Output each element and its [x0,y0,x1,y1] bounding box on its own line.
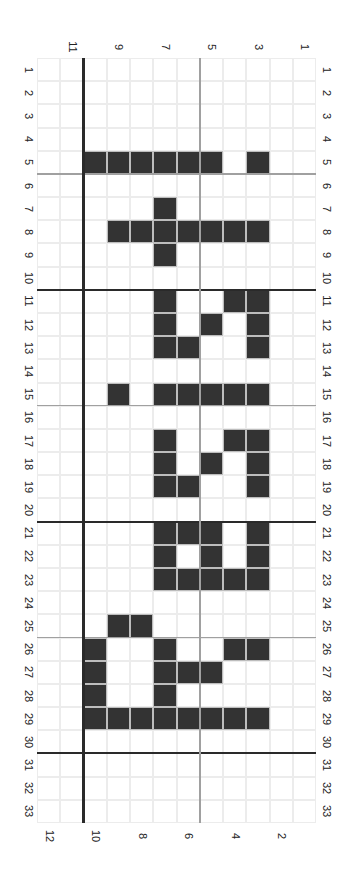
empty-cell [177,545,200,568]
gray-row-separator [37,405,316,407]
empty-cell [130,104,153,127]
empty-cell [37,800,60,823]
empty-cell [293,58,316,81]
filled-cell [223,290,246,313]
row-label-right: 10 [321,272,332,284]
row-label-right: 29 [321,713,332,725]
empty-cell [293,614,316,637]
gray-row-separator [37,173,316,175]
row-label-left: 29 [23,713,34,725]
empty-cell [107,128,130,151]
row-label-right: 24 [321,597,332,609]
empty-cell [107,730,130,753]
empty-cell [246,661,269,684]
empty-cell [270,81,293,104]
empty-cell [153,498,176,521]
row-label-right: 2 [321,90,332,96]
empty-cell [37,267,60,290]
empty-cell [60,336,83,359]
empty-cell [37,614,60,637]
empty-cell [223,359,246,382]
row-label-left: 31 [23,759,34,771]
filled-cell [223,429,246,452]
empty-cell [270,707,293,730]
empty-cell [200,800,223,823]
empty-cell [130,313,153,336]
dark-col-separator [82,58,85,823]
empty-cell [246,243,269,266]
filled-cell [246,568,269,591]
filled-cell [246,638,269,661]
empty-cell [37,81,60,104]
empty-cell [270,58,293,81]
filled-cell [153,313,176,336]
empty-cell [153,753,176,776]
empty-cell [153,591,176,614]
empty-cell [130,359,153,382]
filled-cell [200,707,223,730]
row-label-right: 6 [321,182,332,188]
empty-cell [270,267,293,290]
empty-cell [293,243,316,266]
empty-cell [270,383,293,406]
empty-cell [37,707,60,730]
row-label-left: 11 [23,296,34,307]
empty-cell [177,359,200,382]
empty-cell [37,684,60,707]
filled-cell [200,661,223,684]
empty-cell [84,522,107,545]
filled-cell [130,220,153,243]
empty-cell [200,128,223,151]
empty-cell [84,81,107,104]
empty-cell [130,58,153,81]
filled-cell [177,475,200,498]
row-label-left: 1 [23,67,34,73]
empty-cell [153,267,176,290]
empty-cell [84,429,107,452]
filled-cell [153,475,176,498]
empty-cell [60,661,83,684]
empty-cell [270,429,293,452]
empty-cell [37,406,60,429]
empty-cell [177,638,200,661]
empty-cell [60,128,83,151]
filled-cell [200,568,223,591]
empty-cell [177,58,200,81]
filled-cell [107,707,130,730]
filled-cell [200,151,223,174]
empty-cell [223,197,246,220]
empty-cell [270,220,293,243]
empty-cell [200,197,223,220]
empty-cell [60,267,83,290]
row-label-right: 28 [321,689,332,701]
empty-cell [293,498,316,521]
empty-cell [130,545,153,568]
empty-cell [270,104,293,127]
empty-cell [223,81,246,104]
col-label-bottom: 2 [276,833,287,839]
empty-cell [130,568,153,591]
filled-cell [177,220,200,243]
filled-cell [153,383,176,406]
filled-cell [223,568,246,591]
filled-cell [153,522,176,545]
filled-cell [223,383,246,406]
empty-cell [107,522,130,545]
row-label-right: 23 [321,573,332,585]
empty-cell [223,498,246,521]
filled-cell [177,336,200,359]
empty-cell [153,81,176,104]
col-label-bottom: 10 [90,830,101,842]
filled-cell [153,290,176,313]
empty-cell [200,81,223,104]
empty-cell [177,730,200,753]
row-label-right: 21 [321,527,332,539]
empty-cell [200,104,223,127]
empty-cell [107,336,130,359]
empty-cell [84,777,107,800]
empty-cell [177,267,200,290]
empty-cell [84,359,107,382]
empty-cell [293,383,316,406]
filled-cell [200,545,223,568]
empty-cell [270,243,293,266]
